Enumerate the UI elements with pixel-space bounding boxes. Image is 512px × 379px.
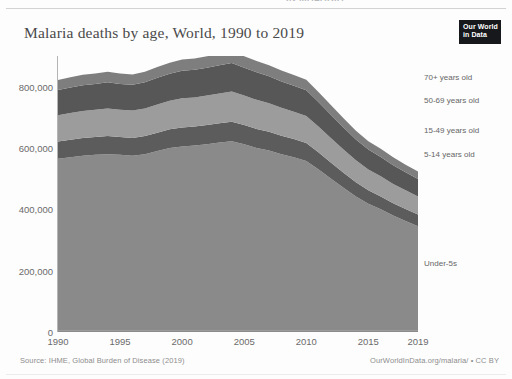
series-label-50-69-years-old: 50-69 years old: [424, 96, 479, 105]
y-tick-label: 800,000: [19, 81, 53, 92]
plot-area: 0200,000400,000600,000800,000 1990199520…: [58, 56, 418, 331]
y-axis-line: [57, 56, 58, 332]
series-label-under-5s: Under-5s: [424, 259, 457, 268]
x-tick-label: 2005: [234, 336, 255, 347]
x-tick-label: 1995: [109, 336, 130, 347]
x-tick-label: 1990: [47, 336, 68, 347]
x-tick-label: 2015: [358, 336, 379, 347]
credit-note[interactable]: OurWorldInData.org/malaria/ • CC BY: [370, 356, 499, 365]
top-divider: [6, 8, 506, 9]
source-note: Source: IHME, Global Burden of Disease (…: [20, 356, 185, 365]
chart-title: Malaria deaths by age, World, 1990 to 20…: [24, 24, 304, 42]
y-tick-label: 200,000: [19, 265, 53, 276]
x-tick-label: 2019: [407, 336, 428, 347]
x-tick-label: 2000: [172, 336, 193, 347]
y-tick-label: 400,000: [19, 204, 53, 215]
logo-line-1: Our World: [463, 23, 498, 30]
chart-figure: IN MALARIA Malaria deaths by age, World,…: [0, 0, 512, 379]
our-world-in-data-logo[interactable]: Our World in Data: [459, 20, 501, 44]
series-label-70-years-old: 70+ years old: [424, 73, 472, 82]
footer-divider: [6, 374, 506, 375]
x-axis-line: [58, 330, 418, 331]
cropped-top-heading-text: IN MALARIA: [286, 0, 344, 3]
series-label-5-14-years-old: 5-14 years old: [424, 150, 475, 159]
y-tick-label: 600,000: [19, 143, 53, 154]
x-tick-label: 2010: [296, 336, 317, 347]
stacked-area-svg: [58, 56, 418, 332]
logo-line-2: in Data: [463, 31, 498, 39]
series-label-15-49-years-old: 15-49 years old: [424, 125, 479, 134]
